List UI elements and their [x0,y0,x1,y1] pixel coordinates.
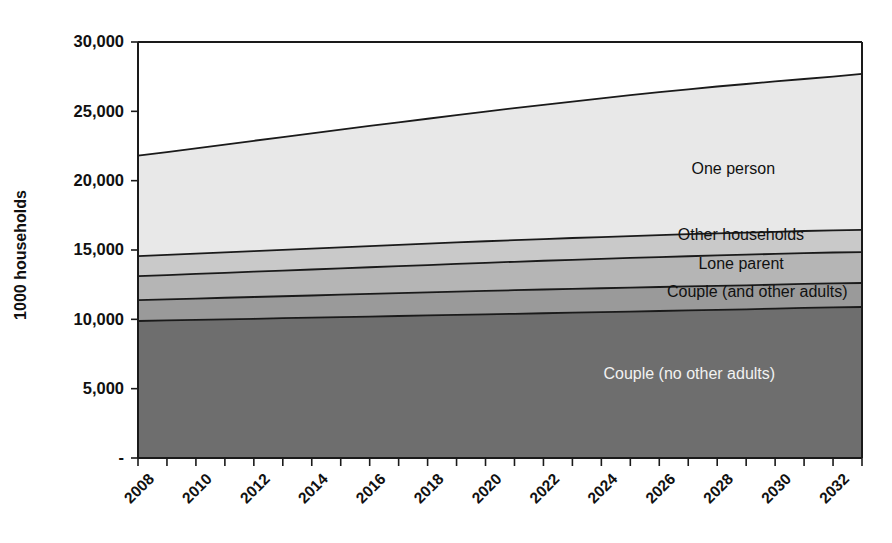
y-tick-label: 15,000 [74,240,124,258]
y-tick-label: 5,000 [83,379,124,397]
x-tick-label: 2020 [468,470,504,506]
x-tick-label: 2014 [294,470,331,507]
y-tick-label: 10,000 [74,310,124,328]
x-axis-ticks: 2008201020122014201620182020202220242026… [121,458,862,507]
x-tick-label: 2026 [642,470,679,507]
series-inline-label: Other households [678,226,804,243]
x-tick-label: 2022 [526,470,562,506]
y-tick-label: 30,000 [74,32,124,50]
area-band [138,307,862,458]
series-inline-label: One person [692,160,776,177]
y-tick-label: 20,000 [74,171,124,189]
chart-container: 1000 households -5,00010,00015,00020,000… [0,0,892,543]
x-tick-label: 2012 [237,470,273,506]
x-tick-label: 2024 [584,470,621,507]
x-tick-label: 2010 [179,470,215,506]
y-tick-label: 25,000 [74,102,124,120]
x-tick-label: 2030 [758,470,794,506]
series-inline-label: Lone parent [698,255,784,272]
x-tick-label: 2032 [816,470,852,506]
x-tick-label: 2016 [352,470,389,507]
stacked-area-chart: 1000 households -5,00010,00015,00020,000… [0,0,892,543]
series-inline-label: Couple (and other adults) [667,283,848,300]
y-tick-label: - [119,448,125,466]
x-tick-label: 2008 [121,470,158,507]
series-inline-label: Couple (no other adults) [603,365,775,382]
y-axis-title: 1000 households [12,190,29,320]
y-axis-ticks: -5,00010,00015,00020,00025,00030,000 [74,32,138,466]
x-tick-label: 2018 [410,470,447,507]
x-tick-label: 2028 [700,470,737,507]
